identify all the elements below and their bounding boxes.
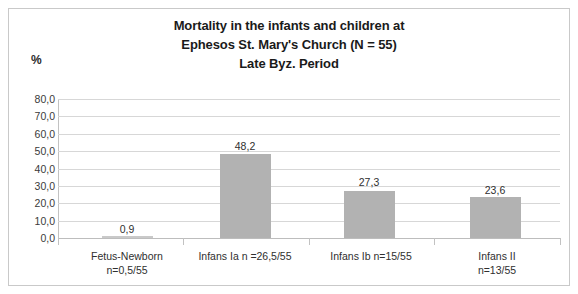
category-tick-3 xyxy=(434,238,435,245)
bar-value-infans-ii: 23,6 xyxy=(485,184,505,196)
gridline-60 xyxy=(58,134,560,135)
y-tick-label-80: 80,0 xyxy=(13,93,55,105)
chart-title: Mortality in the infants and children at… xyxy=(69,17,509,74)
category-label-infans-ia[interactable]: Infans Ia n =26,5/55 xyxy=(198,249,291,263)
chart-title-line-1: Mortality in the infants and children at xyxy=(69,17,509,36)
gridline-50 xyxy=(58,151,560,152)
category-tick-2 xyxy=(309,238,310,245)
bar-fetus-newborn[interactable] xyxy=(102,236,153,238)
plot-area xyxy=(58,99,560,238)
category-label-fetus-newborn[interactable]: Fetus-Newborn n=0,5/55 xyxy=(91,249,163,277)
y-tick-label-0: 0,0 xyxy=(13,232,55,244)
y-tick-label-40: 40,0 xyxy=(13,163,55,175)
category-label-line-1: Infans II n=13/55 xyxy=(478,250,516,276)
y-tick-label-70: 70,0 xyxy=(13,110,55,122)
y-tick-label-20: 20,0 xyxy=(13,197,55,209)
gridline-40 xyxy=(58,169,560,170)
y-tick-label-60: 60,0 xyxy=(13,128,55,140)
category-label-line-2: n=0,5/55 xyxy=(91,263,163,277)
category-label-infans-ib[interactable]: Infans Ib n=15/55 xyxy=(330,249,411,263)
y-tick-label-10: 10,0 xyxy=(13,215,55,227)
category-label-line-1: Infans Ib n=15/55 xyxy=(330,250,411,262)
chart-frame: Mortality in the infants and children at… xyxy=(8,8,570,286)
y-axis-tick-labels: 80,0 70,0 60,0 50,0 40,0 30,0 20,0 10,0 … xyxy=(9,99,55,238)
y-axis-label: % xyxy=(31,53,42,67)
bar-value-infans-ib: 27,3 xyxy=(359,176,379,188)
bar-infans-ib[interactable] xyxy=(344,191,395,238)
chart-title-line-2: Ephesos St. Mary's Church (N = 55) xyxy=(69,36,509,55)
bar-value-infans-ia: 48,2 xyxy=(235,140,255,152)
gridline-80 xyxy=(58,99,560,100)
bar-value-fetus-newborn: 0,9 xyxy=(120,223,135,235)
category-label-infans-ii[interactable]: Infans II n=13/55 xyxy=(461,249,533,277)
bar-infans-ii[interactable] xyxy=(470,197,521,238)
y-tick-label-30: 30,0 xyxy=(13,180,55,192)
category-tick-4 xyxy=(560,238,561,245)
chart-title-line-3: Late Byz. Period xyxy=(69,55,509,74)
category-tick-1 xyxy=(183,238,184,245)
category-tick-0 xyxy=(58,238,59,245)
bar-infans-ia[interactable] xyxy=(220,154,271,238)
category-label-line-1: Fetus-Newborn xyxy=(91,250,163,262)
gridline-70 xyxy=(58,116,560,117)
category-label-line-1: Infans Ia n =26,5/55 xyxy=(198,250,291,262)
y-tick-label-50: 50,0 xyxy=(13,145,55,157)
